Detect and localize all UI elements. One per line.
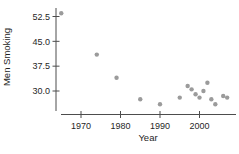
data-point	[158, 102, 162, 106]
x-tick-label: 1990	[150, 121, 170, 131]
y-tick-label: 30.0	[32, 86, 50, 96]
scatterplot-figure: 52.545.037.530.0 1970198019902000 Men Sm…	[0, 0, 239, 154]
data-point	[59, 11, 63, 15]
data-point	[178, 95, 182, 99]
x-tick-label: 2000	[189, 121, 209, 131]
y-axis-title: Men Smoking	[1, 28, 12, 86]
x-tick-label: 1970	[71, 121, 91, 131]
data-point	[201, 89, 205, 93]
data-point	[138, 97, 142, 101]
data-point	[205, 81, 209, 85]
data-point	[209, 97, 213, 101]
y-tick-label: 37.5	[32, 61, 50, 71]
y-tick-label: 52.5	[32, 12, 50, 22]
data-point	[197, 95, 201, 99]
data-point	[189, 87, 193, 91]
y-axis: 52.545.037.530.0	[32, 8, 59, 111]
data-point	[213, 102, 217, 106]
data-point	[185, 84, 189, 88]
data-point	[193, 92, 197, 96]
data-point	[95, 52, 99, 56]
x-axis-title: Year	[138, 132, 157, 143]
men-smoking-scatter-chart: 52.545.037.530.0 1970198019902000 Men Sm…	[0, 0, 239, 154]
data-point	[114, 76, 118, 80]
x-axis: 1970198019902000	[61, 111, 236, 131]
data-point	[225, 95, 229, 99]
x-tick-label: 1980	[110, 121, 130, 131]
data-point	[221, 94, 225, 98]
y-tick-label: 45.0	[32, 37, 50, 47]
data-points	[59, 11, 229, 106]
